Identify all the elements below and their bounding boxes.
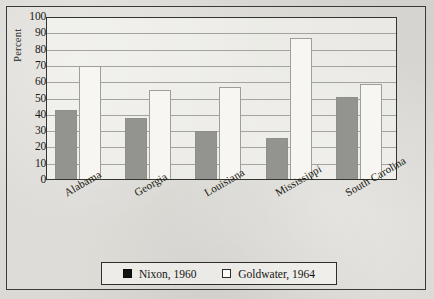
legend-item: Goldwater, 1964 [222,268,315,280]
y-axis-tick-labels: 1009080706050403020100 [16,10,46,187]
y-tick-0: 0 [16,174,46,186]
legend-swatch-filled [123,269,132,278]
y-tick-10: 10 [16,158,46,170]
legend-label: Nixon, 1960 [139,268,197,280]
y-tick-40: 40 [16,109,46,121]
chart-legend: Nixon, 1960Goldwater, 1964 [101,262,337,285]
y-tick-30: 30 [16,125,46,137]
y-tick-80: 80 [16,44,46,56]
y-tick-70: 70 [16,60,46,72]
y-tick-90: 90 [16,28,46,40]
y-tick-50: 50 [16,93,46,105]
legend-swatch-hollow [222,269,231,278]
legend-label: Goldwater, 1964 [238,268,315,280]
plot-border [46,17,397,180]
legend-item: Nixon, 1960 [123,268,197,280]
y-tick-20: 20 [16,142,46,154]
y-tick-60: 60 [16,76,46,88]
plot-area [46,17,397,180]
y-tick-100: 100 [16,11,46,23]
bar-chart-figure: Percent 1009080706050403020100 AlabamaGe… [0,0,434,299]
